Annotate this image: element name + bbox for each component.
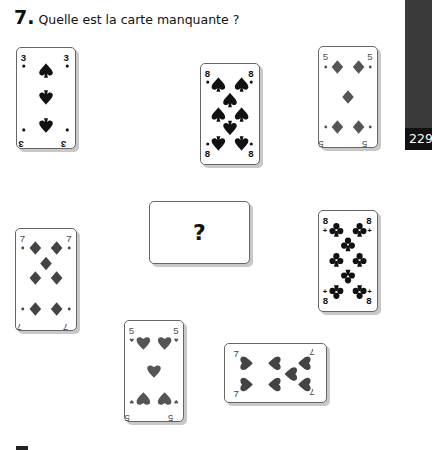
svg-text:8: 8 [323, 296, 329, 307]
svg-text:5: 5 [125, 413, 130, 422]
card-seven-hearts: 7 7 7 7 [224, 343, 327, 403]
svg-text:+: + [323, 287, 328, 296]
svg-text:8: 8 [205, 68, 211, 79]
card-eight-spades: 8 8 8 8 [200, 63, 260, 165]
question-text: Quelle est la carte manquante ? [38, 12, 239, 27]
svg-text:8: 8 [366, 296, 372, 307]
card-five-diamonds: 5 5 5 5 [318, 46, 378, 148]
question-number: 7. [14, 6, 34, 28]
svg-text:5: 5 [319, 139, 324, 148]
svg-text:8: 8 [248, 149, 254, 160]
svg-text:5: 5 [129, 325, 134, 336]
side-tab [405, 0, 432, 128]
svg-text:7: 7 [20, 233, 25, 244]
svg-text:5: 5 [173, 325, 178, 336]
rank-label: 3 [21, 52, 27, 63]
svg-text:7: 7 [233, 388, 238, 399]
svg-text:8: 8 [366, 215, 372, 226]
svg-text:7: 7 [233, 348, 238, 359]
svg-text:3: 3 [60, 139, 66, 148]
card-eight-clubs: 8 8 ++ ++ 8 8 [318, 210, 378, 312]
card-five-hearts: 5 5 5 5 [124, 320, 184, 422]
svg-text:5: 5 [168, 413, 173, 422]
svg-text:+: + [323, 226, 328, 235]
svg-text:7: 7 [309, 347, 314, 358]
svg-text:+: + [367, 287, 372, 296]
svg-text:8: 8 [205, 149, 211, 160]
svg-text:5: 5 [323, 51, 328, 62]
svg-text:5: 5 [367, 51, 372, 62]
card-three-spades: 3 3 3 3 [16, 47, 76, 149]
page-number: 229 [405, 128, 432, 150]
question-title: 7. Quelle est la carte manquante ? [14, 6, 239, 28]
missing-card-question-mark: ? [150, 202, 249, 263]
svg-text:7: 7 [63, 322, 68, 330]
svg-text:5: 5 [362, 139, 367, 148]
svg-text:8: 8 [248, 68, 254, 79]
card-seven-diamonds: 7 7 7 7 [15, 228, 77, 331]
svg-text:3: 3 [18, 139, 24, 148]
svg-text:8: 8 [323, 215, 329, 226]
svg-text:7: 7 [16, 322, 21, 330]
svg-text:+: + [367, 226, 372, 235]
svg-text:7: 7 [66, 233, 71, 244]
next-question-number-fragment [16, 446, 28, 450]
card-missing: ? [149, 201, 250, 264]
svg-text:3: 3 [63, 52, 69, 63]
svg-text:7: 7 [309, 387, 314, 398]
